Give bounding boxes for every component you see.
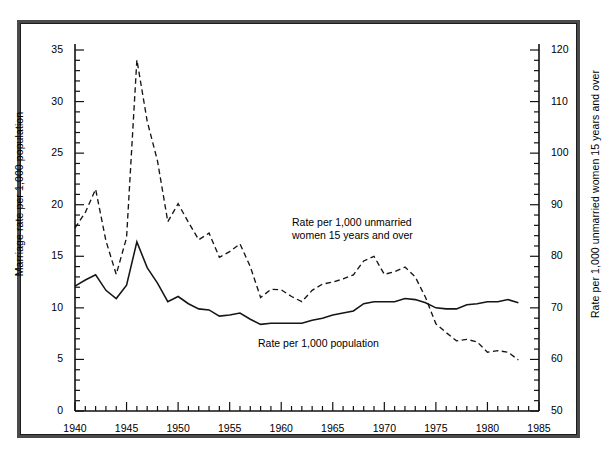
- right-tick-label-110: 110: [551, 95, 568, 107]
- x-tick-label-1950: 1950: [166, 422, 189, 434]
- right-tick-label-50: 50: [551, 404, 563, 416]
- left-tick-label-5: 5: [57, 352, 63, 364]
- x-tick-label-1975: 1975: [424, 422, 447, 434]
- right-tick-label-100: 100: [551, 146, 569, 158]
- series-line-2: [75, 60, 518, 360]
- right-tick-label-120: 120: [551, 43, 569, 55]
- chart-axes: [75, 44, 539, 411]
- chart-plot-area: [0, 0, 604, 458]
- left-tick-label-10: 10: [51, 301, 63, 313]
- x-tick-label-1985: 1985: [527, 422, 550, 434]
- x-tick-label-1955: 1955: [218, 422, 241, 434]
- left-tick-label-35: 35: [51, 43, 63, 55]
- x-tick-label-1965: 1965: [321, 422, 344, 434]
- left-tick-label-0: 0: [57, 404, 63, 416]
- x-tick-label-1980: 1980: [476, 422, 499, 434]
- right-tick-label-70: 70: [551, 301, 563, 313]
- x-tick-label-1970: 1970: [373, 422, 396, 434]
- left-tick-label-25: 25: [51, 146, 63, 158]
- x-tick-label-1960: 1960: [270, 422, 293, 434]
- x-tick-label-1940: 1940: [63, 422, 86, 434]
- right-tick-label-80: 80: [551, 249, 563, 261]
- left-tick-label-15: 15: [51, 249, 63, 261]
- marriage-rate-chart-figure: Marriage rate per 1,000 population Rate …: [0, 0, 604, 458]
- x-tick-label-1945: 1945: [115, 422, 138, 434]
- chart-series-group: [75, 60, 518, 360]
- series-line-1: [75, 242, 518, 325]
- right-tick-label-60: 60: [551, 352, 563, 364]
- left-tick-label-20: 20: [51, 198, 63, 210]
- right-tick-label-90: 90: [551, 198, 563, 210]
- left-tick-label-30: 30: [51, 95, 63, 107]
